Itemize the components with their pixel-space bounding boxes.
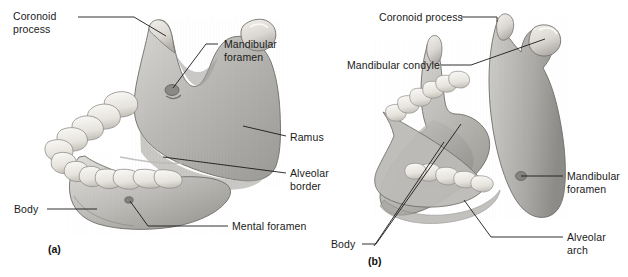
label-mandibular-foramen-a: Mandibular foramen — [224, 38, 277, 63]
label-mandibular-foramen-b: Mandibular foramen — [567, 170, 620, 195]
label-body-b: Body — [331, 238, 355, 251]
mandibular-foramen-a-shape — [165, 85, 179, 96]
label-coronoid-process-b: Coronoid process — [379, 11, 463, 24]
mandibular-condyle-b-shape — [529, 25, 561, 56]
label-alveolar-border-a: Alveolar border — [290, 167, 329, 192]
tooth-b-l5 — [405, 163, 426, 179]
panel-tag-0: (a) — [48, 243, 61, 255]
label-mandibular-condyle-b: Mandibular condyle — [347, 59, 440, 72]
mental-foramen-a-shape — [125, 197, 133, 203]
tooth-b-l4 — [471, 176, 493, 192]
label-coronoid-process-a: Coronoid process — [13, 10, 56, 35]
tooth-b-u6 — [449, 71, 470, 88]
panel-tag-1: (b) — [368, 255, 381, 267]
label-mental-foramen-a: Mental foramen — [232, 220, 306, 233]
mandible-figure: Coronoid processMandibular foramenRamusA… — [0, 0, 628, 277]
label-body-a: Body — [14, 203, 38, 216]
label-ramus-a: Ramus — [290, 131, 324, 144]
label-alveolar-arch-b: Alveolar arch — [567, 231, 606, 256]
panel-b-mandible — [375, 14, 571, 224]
